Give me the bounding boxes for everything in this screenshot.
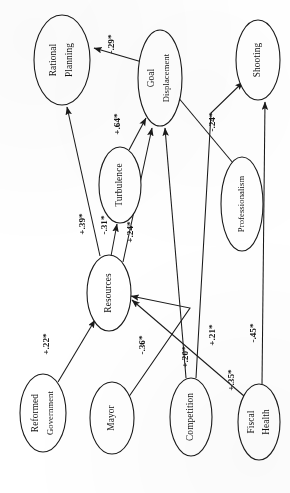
- node-label-reformed-government-line1: Reformed: [30, 394, 40, 432]
- node-label-competition: Competition: [185, 393, 195, 441]
- diagram-canvas: Rational Planning Goal Displacement Shoo…: [0, 0, 290, 493]
- node-turbulence[interactable]: Turbulence: [99, 147, 141, 223]
- node-goal-displacement[interactable]: Goal Displacement: [138, 30, 182, 126]
- node-label-professionalism: Professionalism: [236, 176, 246, 233]
- coef-mayor-to-resources: -.36*: [137, 335, 147, 355]
- node-label-rational-planning-line2: Planning: [64, 43, 74, 77]
- coef-competition-to-shooting: +.21*: [207, 324, 217, 346]
- node-professionalism[interactable]: Professionalism: [221, 157, 263, 251]
- edge-resources-to-turbulence: [111, 224, 117, 256]
- node-ellipse-reformed-government[interactable]: [20, 374, 66, 452]
- node-label-fiscal-health-line1: Fiscal: [246, 410, 256, 433]
- node-label-rational-planning-line1: Rational: [48, 43, 58, 76]
- coef-resources-to-rational: +.39*: [77, 213, 87, 235]
- edge-fiscal-to-shooting: [262, 102, 265, 384]
- node-label-resources: Resources: [103, 273, 113, 313]
- path-diagram-svg: Rational Planning Goal Displacement Shoo…: [0, 0, 290, 493]
- edge-turbulence-to-goal: [129, 118, 146, 150]
- node-label-goal-displacement-line1: Goal: [146, 68, 156, 87]
- node-rational-planning[interactable]: Rational Planning: [34, 15, 90, 105]
- node-shooting[interactable]: Shooting: [236, 20, 280, 100]
- coef-reformed-to-resources: +.22*: [41, 333, 51, 355]
- coef-fiscal-to-shooting: -.45*: [248, 323, 258, 343]
- node-resources[interactable]: Resources: [87, 255, 131, 331]
- node-label-mayor: Mayor: [106, 404, 116, 430]
- node-label-reformed-government-line2: Government: [45, 391, 55, 435]
- node-label-turbulence: Turbulence: [114, 163, 124, 206]
- coef-professionalism-to-goal: -.24*: [207, 112, 217, 132]
- coef-goal-to-rational: -.29*: [106, 34, 116, 54]
- coef-resources-to-turbulence: -.31*: [99, 215, 109, 235]
- node-label-shooting: Shooting: [252, 42, 262, 77]
- coef-competition-to-goal: +.20*: [180, 346, 190, 368]
- coef-fiscal-to-resources: +.35*: [226, 369, 236, 391]
- node-label-fiscal-health-line2: Health: [261, 409, 271, 435]
- node-ellipse-rational-planning[interactable]: [34, 15, 90, 105]
- node-competition[interactable]: Competition: [170, 378, 212, 456]
- node-mayor[interactable]: Mayor: [90, 382, 134, 454]
- node-label-goal-displacement-line2: Displacement: [161, 53, 171, 102]
- coef-resources-to-goal: +.24*: [125, 221, 135, 243]
- node-ellipse-fiscal-health[interactable]: [238, 384, 280, 460]
- node-reformed-government[interactable]: Reformed Government: [20, 374, 66, 452]
- edge-goal-to-rational: [94, 48, 142, 62]
- edge-reformed-to-resources: [58, 320, 95, 382]
- coef-turbulence-to-goal: +.64*: [112, 113, 122, 135]
- node-fiscal-health[interactable]: Fiscal Health: [238, 384, 280, 460]
